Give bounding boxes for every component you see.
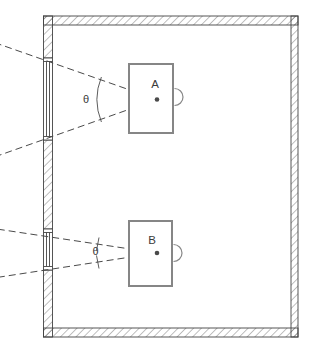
device-a: A [129, 64, 183, 133]
wall-top [44, 16, 299, 25]
angle-a-label: θ [83, 93, 89, 105]
angle-b-label: θ [92, 245, 98, 257]
window-upper [44, 58, 53, 140]
window-upper-frame [44, 58, 53, 140]
wall-left-middle-segment [44, 140, 53, 229]
wall-left-upper-segment [44, 16, 53, 58]
device-b-aperture [174, 245, 183, 262]
wall-bottom [44, 328, 299, 337]
device-b-label: B [148, 234, 156, 246]
window-lower [44, 229, 53, 270]
device-a-box [129, 64, 173, 133]
device-b: B [129, 221, 182, 286]
device-b-box [129, 221, 172, 286]
window-lower-frame [44, 229, 53, 270]
angle-a-arc [97, 77, 101, 122]
wall-left-lower-segment [44, 270, 53, 337]
room-plan-canvas: A B θ θ [0, 0, 314, 351]
device-b-origin-dot [155, 251, 160, 256]
wall-right [291, 16, 298, 337]
room-plan-diagram: A B θ θ [0, 0, 314, 351]
angle-markers [97, 77, 102, 269]
device-a-aperture [175, 89, 184, 106]
device-a-label: A [151, 78, 159, 90]
device-a-origin-dot [155, 97, 160, 102]
